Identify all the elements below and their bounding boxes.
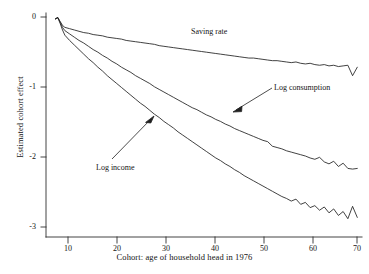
series-label-log-income: Log income xyxy=(96,163,134,172)
x-tick-label-10: 10 xyxy=(56,244,80,253)
x-axis-title: Cohort: age of household head in 1976 xyxy=(0,252,369,262)
x-tick-label-60: 60 xyxy=(301,244,325,253)
y-tick-label-0: 0 xyxy=(18,12,36,21)
x-tick-label-70: 70 xyxy=(345,244,369,253)
series-label-log-consumption: Log consumption xyxy=(274,83,330,92)
chart-background xyxy=(0,0,369,274)
y-axis-title: Estimated cohort effect xyxy=(15,51,25,183)
x-tick-label-20: 20 xyxy=(105,244,129,253)
y-tick-label-2: -2 xyxy=(18,152,36,161)
chart-figure: Estimated cohort effect Cohort: age of h… xyxy=(0,0,369,274)
chart-plot-area xyxy=(0,0,369,274)
x-tick-label-50: 50 xyxy=(252,244,276,253)
x-tick-label-30: 30 xyxy=(154,244,178,253)
x-tick-label-40: 40 xyxy=(203,244,227,253)
y-tick-label-3: -3 xyxy=(18,222,36,231)
bottom-caption-fragment xyxy=(236,266,369,274)
series-label-saving-rate: Saving rate xyxy=(191,27,227,36)
y-tick-label-1: -1 xyxy=(18,82,36,91)
